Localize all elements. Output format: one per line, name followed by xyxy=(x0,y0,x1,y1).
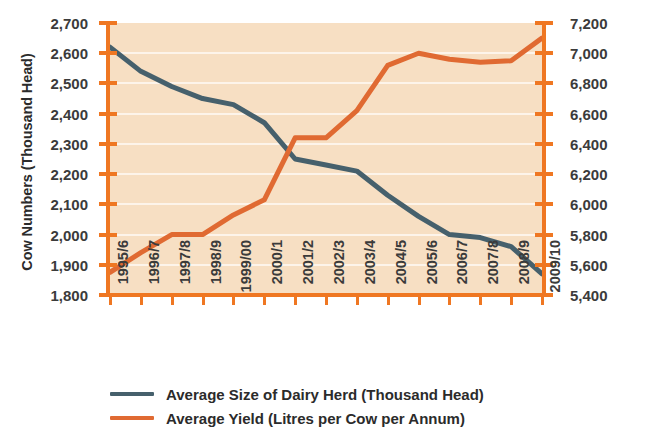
x-axis-label: 2002/3 xyxy=(332,240,347,310)
legend-label: Average Yield (Litres per Cow per Annum) xyxy=(166,410,465,427)
x-axis-label: 1995/6 xyxy=(116,240,131,310)
x-axis-label: 1997/8 xyxy=(178,240,193,310)
chart-legend: Average Size of Dairy Herd (Thousand Hea… xyxy=(110,382,580,430)
legend-item: Average Yield (Litres per Cow per Annum) xyxy=(110,406,580,430)
x-axis-label: 2005/6 xyxy=(425,240,440,310)
legend-label: Average Size of Dairy Herd (Thousand Hea… xyxy=(166,386,484,403)
x-axis-label: 2006/7 xyxy=(455,240,470,310)
x-axis-label: 1999/00 xyxy=(239,240,254,310)
x-axis-label: 2001/2 xyxy=(301,240,316,310)
legend-color-swatch xyxy=(110,416,154,420)
legend-item: Average Size of Dairy Herd (Thousand Hea… xyxy=(110,382,580,406)
x-axis-category-labels: 1995/61996/71997/81998/91999/002000/1200… xyxy=(0,0,645,434)
x-axis-label: 2003/4 xyxy=(363,240,378,310)
x-axis-label: 1998/9 xyxy=(209,240,224,310)
x-axis-label: 2007/8 xyxy=(486,240,501,310)
x-axis-label: 2008/9 xyxy=(517,240,532,310)
x-axis-label: 2004/5 xyxy=(394,240,409,310)
x-axis-label: 2000/1 xyxy=(270,240,285,310)
x-axis-label: 2009/10 xyxy=(548,240,563,310)
legend-color-swatch xyxy=(110,392,154,396)
x-axis-label: 1996/7 xyxy=(147,240,162,310)
dairy-herd-yield-chart: Cow Numbers (Thousand Head) 2,7002,6002,… xyxy=(0,0,645,434)
